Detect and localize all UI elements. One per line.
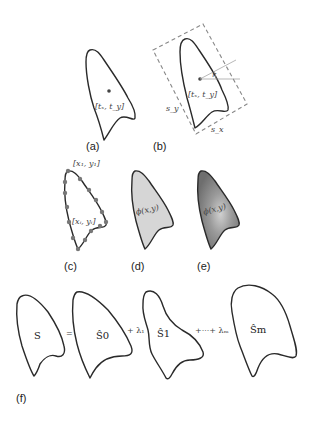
landmark-point [67, 220, 71, 224]
equals-sign: = [66, 329, 73, 338]
panel-d: ϕ(x,y) (d) [131, 171, 173, 272]
landmark-point [66, 169, 70, 173]
panel-label-c: (c) [64, 260, 77, 272]
shape-s1-label: Ŝ1 [157, 328, 170, 339]
panel-b: r [tₓ, t_y] s_y s_x (b) [153, 24, 247, 152]
shape-s-label: S [34, 330, 41, 341]
centroid-label: [tₓ, t_y] [95, 102, 125, 111]
plus-dots-lambda-m: +···+ λₘ [195, 326, 229, 335]
panel-label-f: (f) [16, 392, 26, 404]
landmark-point [78, 177, 82, 181]
point-i-label: [xᵢ, yᵢ] [72, 217, 96, 226]
centroid-label: [tₓ, t_y] [188, 90, 218, 99]
panel-label-a: (a) [86, 140, 99, 152]
first-point-label: [x₁, y₁] [73, 159, 101, 168]
shape-outline [180, 39, 228, 128]
rotation-ray [200, 60, 236, 79]
landmark-point [87, 188, 91, 192]
scale-x-label: s_x [211, 125, 224, 134]
panel-c: [x₁, y₁] [xᵢ, yᵢ] (c) [63, 159, 108, 272]
panel-e: ϕ(x,y) (e) [197, 171, 239, 272]
shape-s0-label: Ŝ0 [96, 330, 109, 341]
panel-f: S = Ŝ0 + λ₁ Ŝ1 +···+ λₘ Ŝm (f) [16, 285, 297, 404]
landmark-point [63, 180, 67, 184]
landmark-point [100, 210, 104, 214]
plus-lambda-1: + λ₁ [127, 326, 145, 335]
landmark-points [63, 169, 108, 251]
landmark-point [63, 191, 67, 195]
panel-a: [tₓ, t_y] (a) [86, 50, 135, 152]
panel-label-e: (e) [197, 260, 210, 272]
landmark-point [94, 198, 98, 202]
diagram-canvas: [tₓ, t_y] (a) r [tₓ, t_y] s_y s_x (b) [0, 0, 313, 421]
shape-sm-label: Ŝm [250, 324, 267, 335]
landmark-point [104, 220, 108, 224]
landmark-point [83, 238, 87, 242]
landmark-point [89, 229, 93, 233]
landmark-point [98, 224, 102, 228]
centroid-dot [107, 89, 111, 93]
landmark-point [71, 236, 75, 240]
landmark-point [65, 205, 69, 209]
panel-label-b: (b) [153, 140, 166, 152]
scale-y-label: s_y [166, 104, 179, 113]
shape-outline [86, 50, 135, 140]
panel-label-d: (d) [131, 260, 144, 272]
landmark-point [76, 247, 80, 251]
